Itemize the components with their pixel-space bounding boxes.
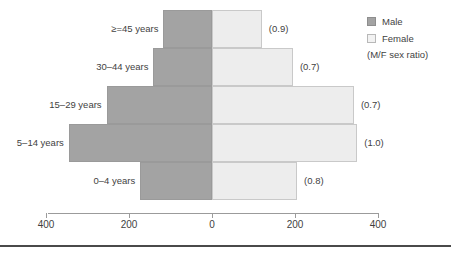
bar-male bbox=[69, 124, 212, 162]
sex-ratio-label: (0.7) bbox=[361, 100, 381, 110]
bar-male bbox=[153, 48, 212, 86]
x-axis-line bbox=[48, 213, 378, 214]
legend-swatch-male-icon bbox=[367, 17, 376, 26]
x-axis-tick-label: 0 bbox=[209, 220, 215, 230]
population-pyramid-figure: ≥=45 years(0.9)30–44 years(0.7)15–29 yea… bbox=[0, 0, 451, 255]
legend-label-female: Female bbox=[382, 34, 414, 44]
legend-label-male: Male bbox=[382, 17, 403, 27]
x-axis-tick bbox=[378, 213, 379, 218]
legend-item-female: Female bbox=[367, 34, 451, 44]
bar-row bbox=[0, 162, 451, 200]
sex-ratio-label: (0.9) bbox=[269, 24, 289, 34]
legend-swatch-female-icon bbox=[367, 34, 376, 43]
age-group-label: 30–44 years bbox=[96, 62, 148, 72]
x-axis: 4002000200400 bbox=[0, 209, 451, 231]
legend: Male Female (M/F sex ratio) bbox=[367, 17, 451, 60]
age-group-label: 5–14 years bbox=[17, 138, 64, 148]
sex-ratio-label: (0.8) bbox=[304, 176, 324, 186]
legend-note: (M/F sex ratio) bbox=[367, 50, 451, 60]
x-axis-tick bbox=[212, 213, 213, 218]
age-group-label: 0–4 years bbox=[93, 176, 135, 186]
bar-male bbox=[140, 162, 212, 200]
bar-male bbox=[163, 10, 212, 48]
x-axis-tick bbox=[46, 213, 47, 218]
sex-ratio-label: (0.7) bbox=[300, 62, 320, 72]
x-axis-tick-label: 200 bbox=[121, 220, 138, 230]
bar-female bbox=[212, 10, 262, 48]
age-group-label: ≥=45 years bbox=[111, 24, 158, 34]
sex-ratio-label: (1.0) bbox=[364, 138, 384, 148]
x-axis-tick bbox=[295, 213, 296, 218]
bar-female bbox=[212, 48, 293, 86]
x-axis-tick-label: 400 bbox=[38, 220, 55, 230]
age-group-label: 15–29 years bbox=[49, 100, 101, 110]
bottom-divider bbox=[0, 245, 451, 247]
legend-item-male: Male bbox=[367, 17, 451, 27]
bar-male bbox=[107, 86, 212, 124]
x-axis-tick-label: 200 bbox=[287, 220, 304, 230]
bar-female bbox=[212, 162, 297, 200]
x-axis-tick bbox=[129, 213, 130, 218]
bar-female bbox=[212, 86, 354, 124]
bar-female bbox=[212, 124, 357, 162]
x-axis-tick-label: 400 bbox=[370, 220, 387, 230]
